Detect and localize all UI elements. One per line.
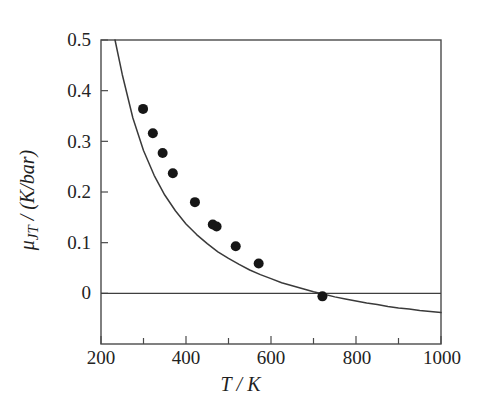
data-point (212, 221, 222, 231)
y-tick-label-0.4: 0.4 (31, 80, 91, 102)
data-point (190, 197, 200, 207)
x-axis-title-symbol: T (220, 373, 231, 395)
data-point (138, 104, 148, 114)
figure-container: 0.5 0.4 0.3 0.2 0.1 0 200 400 600 800 10… (0, 0, 481, 412)
y-axis-title-container: μJT / (K/bar) (14, 100, 44, 300)
x-tick-label-800: 800 (317, 347, 397, 369)
x-tick-label-1000: 1000 (402, 347, 481, 369)
x-axis-title: T / K (0, 373, 481, 396)
plot-frame (101, 40, 441, 344)
y-axis-ticks (101, 40, 108, 293)
x-tick-label-400: 400 (146, 347, 226, 369)
x-tick-label-200: 200 (61, 347, 141, 369)
x-tick-label-600: 600 (231, 347, 311, 369)
y-axis-title: μJT / (K/bar) (16, 150, 42, 250)
data-point-markers (138, 104, 327, 301)
data-point (231, 241, 241, 251)
data-point (168, 168, 178, 178)
y-axis-title-subscript: JT (25, 225, 41, 240)
data-point (254, 258, 264, 268)
data-point (158, 148, 168, 158)
data-point (317, 291, 327, 301)
x-axis-ticks (101, 336, 441, 344)
y-tick-label-0.5: 0.5 (31, 29, 91, 51)
y-axis-title-units: / (K/bar) (16, 150, 38, 226)
data-point (148, 128, 158, 138)
fitted-curve (115, 40, 441, 313)
x-axis-title-units: / K (237, 373, 261, 395)
y-axis-title-mu: μ (16, 240, 38, 250)
